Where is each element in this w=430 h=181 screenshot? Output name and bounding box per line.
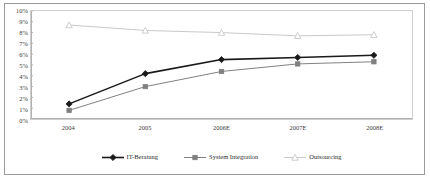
square-marker <box>372 60 376 64</box>
diamond-marker <box>66 101 72 107</box>
series-outsourcing <box>66 22 377 39</box>
y-axis-tick-label: 10% <box>4 7 28 14</box>
triangle-marker <box>284 153 306 162</box>
chart-figure: 10%9%8%7%6%5%4%3%2%1%0% 200420052006E200… <box>0 0 430 181</box>
y-axis-tick-label: 3% <box>4 84 28 91</box>
series-it-beratung <box>66 52 377 107</box>
y-axis-tick-label: 4% <box>4 73 28 80</box>
legend-item[interactable]: IT-Beratung <box>102 153 159 162</box>
y-axis-tick-label: 5% <box>4 62 28 69</box>
square-marker <box>143 84 147 88</box>
x-axis-tick-label: 2007E <box>290 124 307 132</box>
legend-label: System Integration <box>209 153 258 161</box>
plot-svg <box>31 11 412 119</box>
y-axis-tick-label: 2% <box>4 95 28 102</box>
x-axis-tick-label: 2004 <box>62 124 75 132</box>
y-axis-tick-label: 7% <box>4 40 28 47</box>
square-marker <box>67 108 71 112</box>
y-axis-tick-label: 0% <box>4 117 28 124</box>
legend-item[interactable]: System Integration <box>184 153 258 162</box>
diamond-marker <box>371 52 377 58</box>
square-marker <box>296 62 300 66</box>
square-marker <box>184 153 206 162</box>
legend-label: IT-Beratung <box>127 153 159 161</box>
plot-area <box>30 10 413 120</box>
x-axis-tick-label: 2005 <box>138 124 151 132</box>
square-marker <box>219 69 223 73</box>
x-axis-tick-label: 2006E <box>213 124 230 132</box>
legend-label: Outsourcing <box>309 153 341 161</box>
diamond-marker <box>218 57 224 63</box>
y-axis: 10%9%8%7%6%5%4%3%2%1%0% <box>4 10 28 120</box>
diamond-marker <box>109 154 115 160</box>
diamond-marker <box>102 153 124 162</box>
y-axis-tick-label: 6% <box>4 51 28 58</box>
y-axis-tick-label: 8% <box>4 29 28 36</box>
chart-legend: IT-BeratungSystem IntegrationOutsourcing <box>30 150 413 164</box>
x-axis-tick-label: 2008E <box>366 124 383 132</box>
diamond-marker <box>142 71 148 77</box>
y-axis-tick-label: 9% <box>4 18 28 25</box>
x-axis: 200420052006E2007E2008E <box>30 124 413 136</box>
diamond-marker <box>295 54 301 60</box>
square-marker <box>193 155 197 159</box>
legend-item[interactable]: Outsourcing <box>284 153 341 162</box>
y-axis-tick-label: 1% <box>4 106 28 113</box>
